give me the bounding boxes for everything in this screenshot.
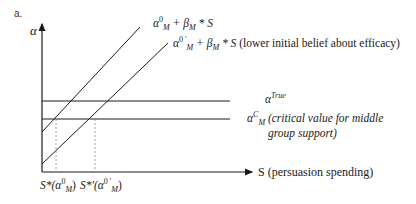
y-axis-label: α (30, 24, 37, 37)
alpha-critical-label-line2: group support) (268, 128, 337, 140)
tick-label-baseline: S*(α0M) (40, 180, 76, 192)
x-axis-label: S (persuasion spending) (258, 166, 373, 178)
tick-label-lower-belief: S*'(α0 'M) (80, 180, 122, 192)
baseline-belief-line (42, 27, 140, 132)
alpha-true-label: αTrue (265, 94, 286, 106)
line-label-lower-belief: α0 'M + βM * S (lower initial belief abo… (173, 38, 400, 50)
line-label-baseline: α0M + βM * S (153, 18, 213, 30)
alpha-critical-label: αCM (critical value for middle (247, 113, 383, 125)
lower-belief-line (42, 43, 168, 164)
